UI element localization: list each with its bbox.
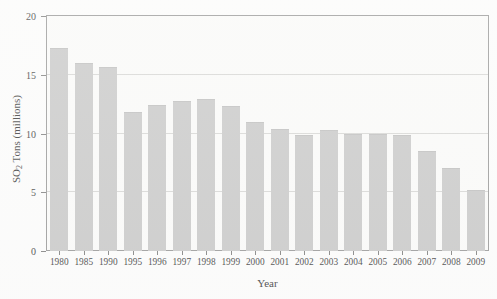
chart-figure: Acid Rain SO2 Emissions Trends; Source: … [0, 0, 497, 299]
bar-fill-1997 [173, 101, 191, 251]
bar-1990[interactable] [99, 16, 117, 251]
x-tick-label-1990: 1990 [99, 257, 118, 267]
bar-fill-1995 [124, 112, 142, 251]
x-tick-label-1999: 1999 [221, 257, 240, 267]
bar-fill-2006 [393, 135, 411, 251]
bar-2000[interactable] [246, 16, 264, 251]
x-tick-label-2007: 2007 [417, 257, 436, 267]
bar-fill-1980 [50, 48, 68, 251]
bar-1995[interactable] [124, 16, 142, 251]
x-axis: Year 19801985199019951996199719981999200… [47, 251, 488, 299]
x-tick-label-2004: 2004 [344, 257, 363, 267]
x-tick-label-1980: 1980 [50, 257, 69, 267]
x-tick-label-2005: 2005 [368, 257, 387, 267]
x-tick-mark-1980 [59, 251, 60, 255]
y-tick-mark-15 [41, 75, 46, 76]
x-tick-mark-2001 [280, 251, 281, 255]
y-tick-mark-10 [41, 134, 46, 135]
bar-1997[interactable] [173, 16, 191, 251]
x-axis-title: Year [47, 277, 488, 289]
bar-fill-1985 [75, 63, 93, 251]
bar-fill-2004 [344, 134, 362, 252]
bar-2008[interactable] [442, 16, 460, 251]
y-axis-title-after: Tons (millions) [10, 95, 22, 165]
bar-2004[interactable] [344, 16, 362, 251]
bar-2005[interactable] [369, 16, 387, 251]
y-axis-title: SO2 Tons (millions) [10, 39, 22, 239]
y-tick-label-5: 5 [31, 187, 36, 198]
x-tick-mark-2007 [427, 251, 428, 255]
x-tick-mark-1990 [108, 251, 109, 255]
x-tick-mark-1996 [157, 251, 158, 255]
bar-fill-1996 [148, 105, 166, 251]
bar-fill-2008 [442, 168, 460, 251]
bar-2001[interactable] [271, 16, 289, 251]
bar-1999[interactable] [222, 16, 240, 251]
x-tick-label-1996: 1996 [148, 257, 167, 267]
bar-fill-2002 [295, 135, 313, 251]
bar-fill-2009 [467, 190, 485, 251]
x-tick-mark-2003 [329, 251, 330, 255]
y-tick-label-20: 20 [26, 11, 36, 22]
x-tick-label-1995: 1995 [123, 257, 142, 267]
x-tick-label-2008: 2008 [442, 257, 461, 267]
x-tick-mark-2008 [451, 251, 452, 255]
x-tick-label-1985: 1985 [74, 257, 93, 267]
x-tick-label-2003: 2003 [319, 257, 338, 267]
x-tick-mark-1998 [206, 251, 207, 255]
bar-2006[interactable] [393, 16, 411, 251]
bar-fill-2000 [246, 122, 264, 251]
y-tick-label-0: 0 [31, 246, 36, 257]
bar-1985[interactable] [75, 16, 93, 251]
y-tick-mark-5 [41, 192, 46, 193]
x-tick-label-1998: 1998 [197, 257, 216, 267]
x-tick-mark-2004 [353, 251, 354, 255]
x-tick-mark-1985 [84, 251, 85, 255]
bar-fill-2007 [418, 151, 436, 251]
bar-1998[interactable] [197, 16, 215, 251]
bar-fill-2003 [320, 130, 338, 251]
x-tick-label-2002: 2002 [295, 257, 314, 267]
bar-series [47, 16, 488, 251]
x-tick-label-2009: 2009 [466, 257, 485, 267]
bar-fill-1998 [197, 99, 215, 251]
y-tick-label-15: 15 [26, 69, 36, 80]
bar-fill-1990 [99, 67, 117, 251]
x-tick-label-2006: 2006 [393, 257, 412, 267]
bar-fill-2005 [369, 134, 387, 252]
x-tick-mark-1997 [182, 251, 183, 255]
x-tick-mark-2000 [255, 251, 256, 255]
bar-2002[interactable] [295, 16, 313, 251]
x-tick-label-2001: 2001 [270, 257, 289, 267]
y-axis-title-before: SO [10, 169, 22, 183]
bar-fill-2001 [271, 129, 289, 251]
bar-2003[interactable] [320, 16, 338, 251]
x-tick-mark-2005 [378, 251, 379, 255]
x-tick-mark-2009 [476, 251, 477, 255]
x-tick-label-2000: 2000 [246, 257, 265, 267]
x-tick-mark-1999 [231, 251, 232, 255]
y-axis: SO2 Tons (millions) 05101520 [0, 0, 46, 299]
x-tick-mark-2006 [402, 251, 403, 255]
y-tick-label-10: 10 [26, 128, 36, 139]
y-tick-mark-20 [41, 16, 46, 17]
y-axis-title-subscript: 2 [15, 165, 24, 169]
x-tick-label-1997: 1997 [172, 257, 191, 267]
bar-2009[interactable] [467, 16, 485, 251]
x-tick-mark-1995 [133, 251, 134, 255]
bar-fill-1999 [222, 106, 240, 251]
bar-1980[interactable] [50, 16, 68, 251]
bar-2007[interactable] [418, 16, 436, 251]
x-tick-mark-2002 [304, 251, 305, 255]
y-tick-mark-0 [41, 251, 46, 252]
bar-1996[interactable] [148, 16, 166, 251]
